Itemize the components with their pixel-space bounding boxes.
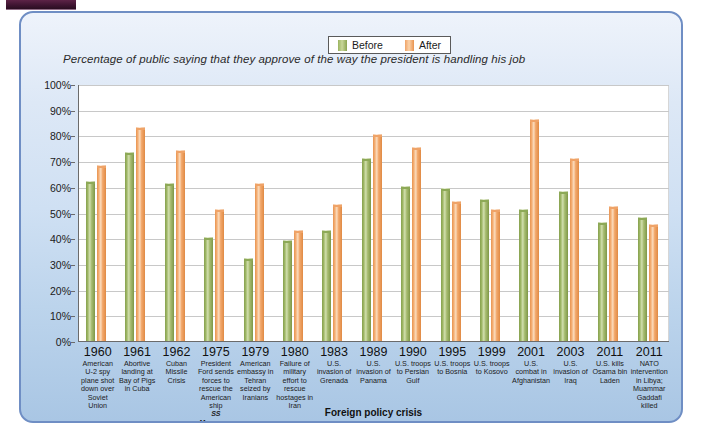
bar-group xyxy=(315,85,354,341)
bar-after[interactable] xyxy=(294,230,303,342)
bar-before[interactable] xyxy=(401,186,410,341)
y-axis: 0%10%20%30%40%50%60%70%80%90%100% xyxy=(39,85,75,342)
plot-area xyxy=(78,85,669,342)
bar-group xyxy=(355,85,394,341)
bar-after[interactable] xyxy=(452,201,461,341)
x-axis-category-label: 2011NATO intervention in Libya; Muammar … xyxy=(630,345,669,410)
y-axis-tick-label: 20% xyxy=(50,285,71,297)
x-axis-category-label: 1989U.S. invasion of Panama xyxy=(354,345,393,385)
bar-cap xyxy=(441,189,450,191)
x-axis-category-label: 1980Failure of military effort to rescue… xyxy=(275,345,314,410)
x-axis-category-label: 1962Cuban Missile Crisis xyxy=(157,345,196,385)
x-axis-description: U.S. invasion of Grenada xyxy=(314,360,353,385)
bar-cap xyxy=(649,225,658,227)
bar-before[interactable] xyxy=(125,152,134,341)
bar-cap xyxy=(215,210,224,212)
legend-label-after: After xyxy=(419,39,441,51)
bar-before[interactable] xyxy=(165,183,174,341)
bar-group xyxy=(434,85,473,341)
bar-after[interactable] xyxy=(136,127,145,341)
bar-after[interactable] xyxy=(491,209,500,341)
bar-group xyxy=(591,85,630,341)
bar-cap xyxy=(559,192,568,194)
bar-after[interactable] xyxy=(530,119,539,341)
x-axis-year: 1995 xyxy=(433,345,472,359)
x-axis-year: 2011 xyxy=(630,345,669,359)
y-axis-tick-mark xyxy=(71,316,75,317)
legend-item-before: Before xyxy=(338,39,383,51)
x-axis-year: 1989 xyxy=(354,345,393,359)
x-axis-year: 1962 xyxy=(157,345,196,359)
y-axis-tick-mark xyxy=(71,136,75,137)
bar-cap xyxy=(609,207,618,209)
bar-after[interactable] xyxy=(412,147,421,341)
bar-cap xyxy=(136,128,145,130)
bar-before[interactable] xyxy=(638,217,647,341)
bar-cap xyxy=(570,159,579,161)
bar-group xyxy=(237,85,276,341)
bar-before[interactable] xyxy=(480,199,489,341)
bar-before[interactable] xyxy=(283,240,292,341)
bar-before[interactable] xyxy=(559,191,568,341)
bar-before[interactable] xyxy=(204,237,213,341)
legend-label-before: Before xyxy=(352,39,383,51)
bar-series-container xyxy=(79,85,669,341)
x-axis-year: 1975 xyxy=(196,345,235,359)
bar-cap xyxy=(480,200,489,202)
bar-after[interactable] xyxy=(255,183,264,341)
bar-cap xyxy=(373,135,382,137)
x-axis-year: 2011 xyxy=(590,345,629,359)
x-axis-year: 1961 xyxy=(117,345,156,359)
bar-cap xyxy=(412,148,421,150)
bar-cap xyxy=(204,238,213,240)
bar-after[interactable] xyxy=(215,209,224,341)
x-axis-year: 1979 xyxy=(236,345,275,359)
bar-before[interactable] xyxy=(598,222,607,341)
bar-cap xyxy=(294,231,303,233)
bar-group xyxy=(197,85,236,341)
bar-before[interactable] xyxy=(322,230,331,342)
x-axis-description: NATO intervention in Libya; Muammar Gadd… xyxy=(630,360,669,410)
y-axis-tick-label: 80% xyxy=(50,130,71,142)
y-axis-tick-label: 60% xyxy=(50,182,71,194)
x-axis-category-label: 2011U.S. kills Osama bin Laden xyxy=(590,345,629,385)
bar-cap xyxy=(333,205,342,207)
bar-cap xyxy=(165,184,174,186)
bar-after[interactable] xyxy=(649,224,658,341)
y-axis-tick-mark xyxy=(71,291,75,292)
x-axis-category-label: 1990U.S. troops to Persian Gulf xyxy=(393,345,432,385)
y-axis-tick-label: 90% xyxy=(50,105,71,117)
bar-after[interactable] xyxy=(373,134,382,341)
y-axis-tick-mark xyxy=(71,188,75,189)
x-axis-category-label: 1961Abortive landing at Bay of Pigs in C… xyxy=(117,345,156,394)
y-axis-tick-mark xyxy=(71,162,75,163)
x-axis-year: 1990 xyxy=(393,345,432,359)
bar-after[interactable] xyxy=(97,165,106,341)
bar-before[interactable] xyxy=(441,188,450,341)
x-axis-category-label: 1999U.S. troops to Kosovo xyxy=(472,345,511,377)
bar-cap xyxy=(86,182,95,184)
bar-cap xyxy=(244,259,253,261)
page-accent-tab xyxy=(6,0,76,10)
x-axis-category-label: 1983U.S. invasion of Grenada xyxy=(314,345,353,385)
x-axis-description: U.S. kills Osama bin Laden xyxy=(590,360,629,385)
bar-before[interactable] xyxy=(244,258,253,341)
bar-group xyxy=(276,85,315,341)
x-axis-category-label: 1995U.S. troops to Bosnia xyxy=(433,345,472,377)
bar-before[interactable] xyxy=(86,181,95,341)
bar-after[interactable] xyxy=(570,158,579,341)
bar-group xyxy=(79,85,118,341)
bar-cap xyxy=(530,120,539,122)
bar-before[interactable] xyxy=(362,158,371,341)
y-axis-tick-label: 30% xyxy=(50,259,71,271)
x-axis-description-italic: SS Mayaguez xyxy=(196,410,235,423)
x-axis-description: Abortive landing at Bay of Pigs in Cuba xyxy=(117,360,156,394)
x-axis-description: U.S. troops to Bosnia xyxy=(433,360,472,377)
bar-after[interactable] xyxy=(609,206,618,341)
bar-before[interactable] xyxy=(519,209,528,341)
bar-after[interactable] xyxy=(333,204,342,341)
x-axis-category-label: 2001U.S. combat in Afghanistan xyxy=(511,345,550,385)
legend-item-after: After xyxy=(405,39,441,51)
bar-after[interactable] xyxy=(176,150,185,341)
x-axis-year: 2001 xyxy=(511,345,550,359)
